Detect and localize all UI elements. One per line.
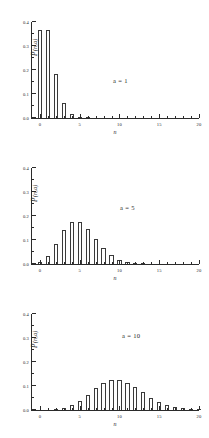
y-tick-major (32, 313, 36, 314)
x-tick-minor (72, 116, 73, 118)
y-tick-label: 0.0 (15, 408, 29, 413)
y-tick-major (32, 239, 36, 240)
x-tick-label: 15 (152, 414, 166, 419)
y-tick-minor (32, 179, 34, 180)
y-axis-title-prefix-3: P (30, 343, 39, 348)
x-tick-label: 20 (192, 268, 206, 273)
x-tick-major (119, 260, 120, 264)
x-tick-minor (96, 116, 97, 118)
chart-panel-a10: 0.00.10.20.30.405101520 P(n,a) n a = 10 (0, 292, 209, 438)
x-tick-minor (167, 262, 168, 264)
x-tick-minor (104, 262, 105, 264)
y-tick-label: 0.2 (15, 68, 29, 73)
y-tick-label: 0.1 (15, 384, 29, 389)
x-tick-label: 0 (33, 268, 47, 273)
y-tick-major (32, 117, 36, 118)
y-axis-title-prefix-1: P (30, 51, 39, 56)
x-tick-minor (143, 408, 144, 410)
y-tick-label: 0.2 (15, 360, 29, 365)
y-tick-label: 0.2 (15, 214, 29, 219)
y-tick-minor (32, 203, 34, 204)
y-tick-major (32, 361, 36, 362)
y-tick-label: 0.4 (15, 166, 29, 171)
x-tick-minor (88, 262, 89, 264)
annotation-label-3: a = 10 (122, 332, 140, 339)
poisson-distribution-figure: 0.00.10.20.30.405101520 P(n,a) n a = 1 0… (0, 0, 209, 438)
x-axis-line-2 (31, 264, 199, 265)
x-tick-minor (64, 116, 65, 118)
x-tick-minor (151, 408, 152, 410)
x-tick-label: 0 (33, 414, 47, 419)
x-tick-minor (175, 116, 176, 118)
x-tick-minor (175, 262, 176, 264)
x-tick-major (119, 114, 120, 118)
x-tick-label: 5 (73, 122, 87, 127)
bar (133, 387, 137, 410)
x-tick-major (159, 406, 160, 410)
y-tick-minor (32, 227, 34, 228)
y-tick-label: 0.1 (15, 92, 29, 97)
y-tick-label: 0.4 (15, 20, 29, 25)
bar (62, 230, 66, 264)
x-axis-title-3: n (31, 421, 199, 427)
x-tick-label: 10 (112, 414, 126, 419)
y-axis-title-prefix-2: P (30, 197, 39, 202)
x-tick-minor (135, 262, 136, 264)
y-tick-minor (32, 325, 34, 326)
y-tick-label: 0.3 (15, 44, 29, 49)
x-tick-label: 15 (152, 268, 166, 273)
x-tick-minor (56, 408, 57, 410)
y-axis-title-suffix-2: (n,a) (31, 184, 38, 197)
plot-area-3: 0.00.10.20.30.405101520 P(n,a) n (31, 314, 199, 411)
x-tick-label: 0 (33, 122, 47, 127)
x-tick-major (80, 406, 81, 410)
x-tick-minor (127, 262, 128, 264)
x-tick-major (199, 114, 200, 118)
x-axis-title-1: n (31, 129, 199, 135)
y-tick-major (32, 385, 36, 386)
y-tick-label: 0.3 (15, 190, 29, 195)
x-tick-minor (64, 408, 65, 410)
plot-area-1: 0.00.10.20.30.405101520 P(n,a) n (31, 22, 199, 119)
x-tick-minor (112, 262, 113, 264)
x-tick-major (199, 406, 200, 410)
plot-area-2: 0.00.10.20.30.405101520 P(n,a) n (31, 168, 199, 265)
y-axis-title-2: P(n,a) (30, 184, 39, 202)
chart-panel-a5: 0.00.10.20.30.405101520 P(n,a) n a = 5 (0, 146, 209, 292)
x-tick-major (80, 114, 81, 118)
bar (125, 383, 129, 410)
x-tick-minor (135, 116, 136, 118)
x-tick-minor (191, 408, 192, 410)
x-tick-minor (183, 262, 184, 264)
x-tick-minor (104, 408, 105, 410)
x-tick-minor (175, 408, 176, 410)
x-tick-minor (112, 116, 113, 118)
x-tick-minor (151, 262, 152, 264)
x-axis-title-2: n (31, 275, 199, 281)
x-tick-minor (48, 116, 49, 118)
y-tick-minor (32, 251, 34, 252)
y-tick-major (32, 69, 36, 70)
x-tick-minor (104, 116, 105, 118)
x-tick-minor (127, 116, 128, 118)
y-axis-title-3: P(n,a) (30, 330, 39, 348)
x-tick-minor (167, 408, 168, 410)
x-tick-minor (167, 116, 168, 118)
y-tick-label: 0.0 (15, 116, 29, 121)
y-tick-minor (32, 349, 34, 350)
chart-panel-a1: 0.00.10.20.30.405101520 P(n,a) n a = 1 (0, 0, 209, 146)
y-tick-minor (32, 105, 34, 106)
bar (94, 388, 98, 410)
x-tick-major (80, 260, 81, 264)
x-tick-label: 15 (152, 122, 166, 127)
x-tick-minor (56, 262, 57, 264)
x-tick-label: 10 (112, 122, 126, 127)
bar (94, 239, 98, 264)
annotation-label-1: a = 1 (113, 77, 128, 84)
y-tick-major (32, 409, 36, 410)
bar (109, 380, 113, 410)
y-axis-title-1: P(n,a) (30, 38, 39, 56)
x-tick-minor (56, 116, 57, 118)
y-axis-title-suffix-3: (n,a) (31, 330, 38, 343)
x-tick-minor (143, 262, 144, 264)
